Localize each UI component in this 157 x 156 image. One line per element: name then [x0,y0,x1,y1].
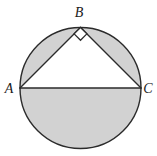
geometry-figure: Right triangle inscribed in a circle Cir… [0,0,157,156]
vertex-label-c: C [143,81,153,96]
vertex-label-b: B [75,5,84,20]
vertex-label-a: A [4,81,14,96]
geometry-canvas: Right triangle inscribed in a circle Cir… [0,0,157,156]
